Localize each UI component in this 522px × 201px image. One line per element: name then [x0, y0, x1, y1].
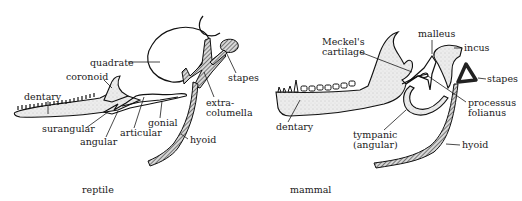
label-tympanic-2: (angular) — [353, 139, 398, 150]
label-dentary-mammal: dentary — [276, 121, 314, 132]
label-stapes-mammal: stapes — [487, 73, 518, 84]
label-processus-2: folianus — [468, 107, 506, 118]
mammal-stapes — [458, 64, 476, 82]
jaw-evolution-figure: quadrate coronoid dentary stapes extra- … — [0, 0, 522, 201]
reptile-columella — [182, 38, 226, 88]
diagram-svg: quadrate coronoid dentary stapes extra- … — [0, 0, 522, 201]
label-angular: angular — [80, 136, 118, 147]
caption-reptile: reptile — [82, 184, 114, 195]
label-malleus: malleus — [418, 28, 455, 39]
mammal-teeth — [278, 80, 355, 92]
label-dentary: dentary — [24, 91, 62, 102]
label-incus: incus — [464, 42, 490, 53]
label-meckels-2: cartilage — [322, 46, 365, 57]
label-coronoid: coronoid — [66, 71, 108, 82]
label-extracolumella-2: columella — [206, 107, 253, 118]
caption-mammal: mammal — [290, 184, 331, 195]
reptile-skull-edge — [199, 16, 220, 36]
label-stapes: stapes — [228, 72, 259, 83]
label-hyoid: hyoid — [190, 134, 216, 145]
label-hyoid-mammal: hyoid — [462, 139, 488, 150]
label-quadrate: quadrate — [90, 57, 134, 68]
label-articular: articular — [120, 127, 162, 138]
mammal-panel: Meckel's cartilage malleus incus stapes … — [276, 28, 518, 195]
reptile-panel: quadrate coronoid dentary stapes extra- … — [14, 16, 259, 195]
mammal-tympanic — [404, 86, 448, 115]
label-surangular: surangular — [42, 123, 95, 134]
